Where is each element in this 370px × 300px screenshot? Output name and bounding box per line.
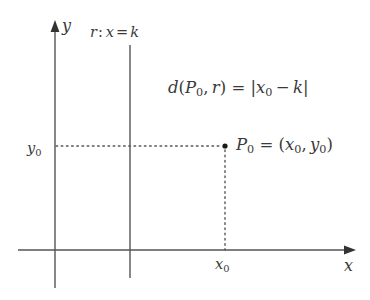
y-tick-label-y0: y0: [27, 141, 41, 158]
formula-abs-close: |: [303, 78, 309, 97]
y-tick-value-subscript: 0: [35, 147, 41, 158]
line-r-equation-lhs: x: [106, 24, 114, 40]
formula-line: r: [212, 78, 220, 97]
formula-close-paren: ): [220, 78, 226, 97]
point-p0-label: P0 = (x0, y0): [236, 137, 333, 155]
point-name: P: [236, 135, 247, 154]
y-axis-label: y: [62, 18, 71, 34]
x-tick-value-subscript: 0: [223, 263, 229, 274]
formula-point: P: [185, 78, 196, 97]
x-tick-label-x0: x0: [215, 257, 229, 274]
line-r-colon: :: [97, 24, 106, 40]
point-coord-y: y: [310, 135, 319, 154]
formula-x0-subscript: 0: [265, 86, 272, 99]
distance-point-to-vertical-line-diagram: y x r:x=k d(P0, r) = |x0 − k| P0 = (x0, …: [0, 0, 370, 300]
formula-minus: −: [276, 78, 290, 97]
distance-formula: d(P0, r) = |x0 − k|: [168, 80, 308, 98]
x-tick-value: x: [215, 256, 223, 272]
formula-comma: ,: [203, 78, 208, 97]
formula-x0: x: [256, 78, 265, 97]
y-tick-value: y: [27, 140, 35, 156]
line-r-equation-operator: =: [114, 24, 130, 40]
point-coord-x: x: [285, 135, 294, 154]
formula-equals: =: [231, 78, 245, 97]
point-p0-marker: [222, 143, 227, 148]
point-name-subscript: 0: [247, 143, 254, 156]
formula-k: k: [293, 78, 303, 97]
point-comma: ,: [301, 135, 306, 154]
line-r-label: r:x=k: [90, 25, 139, 40]
formula-d: d: [168, 78, 179, 97]
x-axis-label: x: [344, 258, 353, 274]
line-r-equation-rhs: k: [130, 24, 139, 40]
y-axis-arrowhead: [51, 20, 60, 32]
line-r-name: r: [90, 24, 97, 40]
point-close-paren: ): [326, 135, 332, 154]
x-axis-arrowhead: [344, 246, 356, 255]
point-equals: =: [260, 135, 274, 154]
